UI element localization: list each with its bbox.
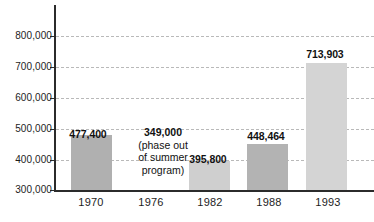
value-label-1970: 477,400 [64,128,112,140]
ytick-label-800000: 800,000 [0,30,52,41]
bar-1970 [71,135,112,190]
ytick-label-400000: 400,000 [0,154,52,165]
x-axis-line [54,190,374,192]
value-label-1988: 448,464 [242,130,290,142]
bar-1993 [306,63,347,191]
annotation-value-1976: 349,000 [124,126,202,139]
ytick-label-600000: 600,000 [0,92,52,103]
annotation-1976: 349,000 (phase out of summer program) [124,126,202,176]
bar-1988 [247,144,288,190]
annotation-line-1: (phase out [124,139,202,152]
bar-chart: 800,000 700,000 600,000 500,000 400,000 … [0,0,374,222]
ytick-label-300000: 300,000 [0,184,52,195]
xtick-label-1993: 1993 [293,196,363,208]
ytick-label-500000: 500,000 [0,123,52,134]
annotation-line-2: of summer [124,151,202,164]
ytick-label-700000: 700,000 [0,61,52,72]
value-label-1993: 713,903 [301,48,349,60]
annotation-line-3: program) [124,164,202,177]
